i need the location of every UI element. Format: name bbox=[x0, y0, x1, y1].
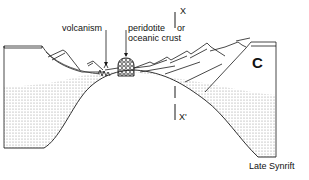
section-x-label: X bbox=[180, 6, 186, 16]
peridotite-label: peridotite bbox=[128, 23, 165, 33]
right-margin-surface bbox=[246, 42, 276, 48]
left-fault-block-2 bbox=[87, 61, 103, 70]
left-fault-block-1 bbox=[48, 50, 80, 70]
left-margin-surface bbox=[4, 46, 42, 48]
oceanic-crust-label: oceanic crust bbox=[128, 33, 181, 43]
peridotite-or-label: or bbox=[177, 23, 185, 33]
diagram-canvas: volcanism peridotite or oceanic crust X … bbox=[0, 0, 309, 180]
panel-letter: C bbox=[252, 58, 263, 68]
volcanism-label: volcanism bbox=[62, 23, 102, 33]
peridotite-body bbox=[118, 58, 134, 76]
diagram-caption: Late Synrift bbox=[249, 161, 295, 171]
stippled-mantle-region bbox=[4, 70, 276, 157]
section-x-prime-label: X' bbox=[179, 112, 187, 122]
